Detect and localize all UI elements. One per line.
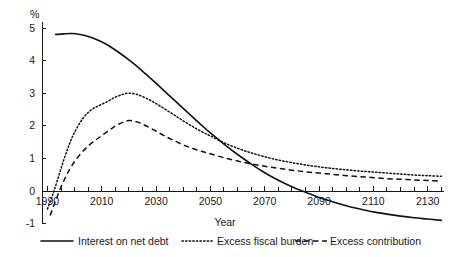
y-axis-unit-label: % — [30, 8, 39, 20]
y-tick-label: 3 — [29, 87, 35, 99]
y-tick-label: 2 — [29, 119, 35, 131]
y-tick-label: 1 — [29, 152, 35, 164]
x-tick-label: 2010 — [90, 195, 114, 207]
y-tick-label: 4 — [29, 54, 35, 66]
y-tick-label: 5 — [29, 22, 35, 34]
series-line-dotted — [47, 93, 441, 209]
legend-label: Excess contribution — [330, 235, 421, 247]
x-tick-label: 2130 — [416, 195, 440, 207]
y-tick-label: -1 — [26, 217, 35, 229]
x-axis-title: Year — [214, 216, 236, 228]
chart-container: % -1012345 19902010203020502070209021102… — [0, 0, 450, 257]
legend-label: Interest on net debt — [78, 235, 169, 247]
x-tick-label: 2070 — [253, 195, 277, 207]
chart-legend: Interest on net debtExcess fiscal burden… — [41, 235, 421, 247]
y-axis-tick-labels: -1012345 — [26, 22, 36, 230]
x-tick-label: 1990 — [36, 195, 60, 207]
x-tick-label: 2110 — [362, 195, 385, 207]
y-tick-label: 0 — [29, 185, 35, 197]
line-chart: % -1012345 19902010203020502070209021102… — [0, 0, 450, 257]
chart-axes — [42, 22, 444, 224]
chart-series-group — [47, 34, 441, 221]
x-axis-tick-labels: 19902010203020502070209021102130 — [36, 195, 440, 207]
x-tick-label: 2050 — [199, 195, 223, 207]
x-axis-minor-tick-marks — [47, 187, 441, 191]
x-tick-label: 2030 — [144, 195, 168, 207]
